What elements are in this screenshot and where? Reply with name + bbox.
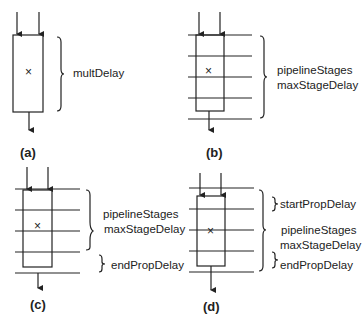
brace-small <box>272 197 278 211</box>
panel-a-diagram <box>13 12 64 130</box>
start-prop-delay-label: startPropDelay <box>280 197 356 211</box>
end-prop-delay-label: endPropDelay <box>280 258 353 272</box>
pipeline-stages-label: pipelineStages <box>281 223 356 237</box>
brace <box>260 36 267 118</box>
multiply-icon: × <box>34 219 41 233</box>
panel-d-diagram <box>189 173 278 290</box>
max-stage-delay-label: maxStageDelay <box>280 238 361 252</box>
max-stage-delay-label: maxStageDelay <box>104 222 185 236</box>
caption-b: (b) <box>206 145 223 160</box>
panel-c-diagram <box>15 167 105 288</box>
pipeline-stages-label: pipelineStages <box>103 207 178 221</box>
multiply-icon: × <box>207 224 214 238</box>
caption-c: (c) <box>30 297 46 312</box>
end-prop-delay-label: endPropDelay <box>111 258 184 272</box>
brace-small <box>99 255 105 272</box>
brace <box>86 190 93 250</box>
pipeline-stages-label: pipelineStages <box>277 63 352 77</box>
caption-d: (d) <box>203 299 220 314</box>
max-stage-delay-label: maxStageDelay <box>277 78 358 92</box>
brace <box>259 190 266 271</box>
mult-delay-label: multDelay <box>73 66 124 80</box>
caption-a: (a) <box>20 145 36 160</box>
multiply-icon: × <box>205 64 212 78</box>
panel-b-diagram <box>188 12 267 130</box>
brace-small <box>272 252 278 268</box>
diagram-canvas <box>0 0 363 324</box>
multiply-icon: × <box>25 65 32 79</box>
brace <box>57 37 64 111</box>
